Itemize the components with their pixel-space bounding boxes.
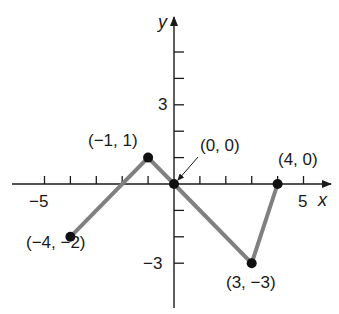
y-axis-ticks: [174, 52, 184, 263]
x-tick-label-5: 5: [298, 192, 307, 211]
data-point: [247, 258, 257, 268]
data-point: [169, 179, 179, 189]
y-tick-label-3: 3: [158, 95, 167, 114]
point-label-neg1-1: (−1, 1): [88, 131, 138, 150]
x-axis-label: x: [317, 190, 328, 210]
coordinate-plane: x y −5 5 3 −3 (−4, −2) (−1, 1) (0, 0) (3…: [0, 0, 339, 314]
data-point: [143, 153, 153, 163]
origin-annotation-arrow: [178, 157, 198, 180]
point-label-4-0: (4, 0): [278, 150, 318, 169]
y-tick-label-neg3: −3: [143, 254, 162, 273]
data-point: [273, 179, 283, 189]
point-label-neg4-neg2: (−4, −2): [26, 233, 86, 252]
y-axis-label: y: [156, 12, 168, 32]
x-tick-label-neg5: −5: [29, 192, 48, 211]
point-label-3-neg3: (3, −3): [226, 273, 276, 292]
point-label-0-0: (0, 0): [200, 136, 240, 155]
